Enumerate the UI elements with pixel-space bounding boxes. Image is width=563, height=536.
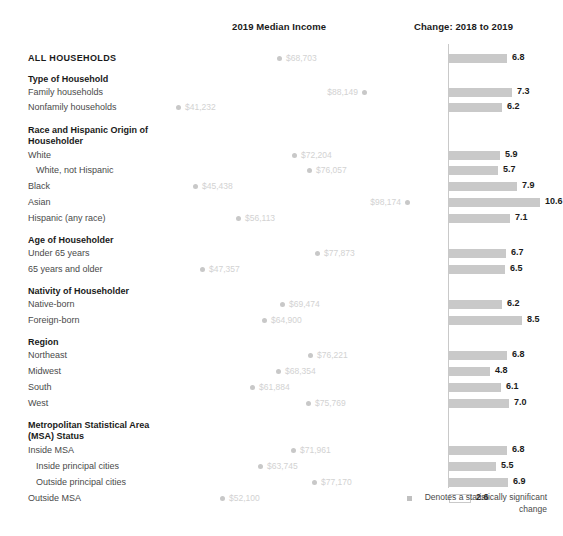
change-value: 5.5 — [501, 459, 514, 471]
group-heading: Age of Householder — [28, 234, 114, 246]
median-income-value: $45,438 — [202, 180, 233, 192]
group-heading: Type of Household — [28, 73, 108, 85]
median-income-dot — [276, 369, 281, 374]
change-value: 7.0 — [514, 396, 527, 408]
median-income-value: $76,057 — [316, 164, 347, 176]
column-header-change: Change: 2018 to 2019 — [414, 21, 513, 32]
change-bar — [449, 462, 496, 471]
median-income-value: $52,100 — [229, 492, 260, 504]
median-income-dot — [277, 56, 282, 61]
table-row: 65 years and older$47,3576.5 — [0, 263, 555, 281]
change-value: 6.7 — [511, 246, 524, 258]
median-income-value: $75,769 — [315, 397, 346, 409]
median-income-dot — [193, 184, 198, 189]
row-label: White — [28, 149, 51, 161]
change-value: 5.7 — [503, 163, 516, 175]
change-value: 6.8 — [512, 51, 525, 63]
change-value: 6.9 — [513, 475, 526, 487]
change-value: 7.1 — [515, 211, 528, 223]
median-income-dot — [308, 353, 313, 358]
row-label: Inside MSA — [28, 444, 74, 456]
change-bar — [449, 478, 508, 487]
change-value: 6.8 — [512, 348, 525, 360]
row-label: Outside principal cities — [36, 476, 126, 488]
change-value: 6.8 — [512, 443, 525, 455]
median-income-dot — [362, 90, 367, 95]
median-income-value: $61,884 — [259, 381, 290, 393]
row-label: Inside principal cities — [36, 460, 119, 472]
median-income-value: $41,232 — [185, 101, 216, 113]
change-bar — [449, 214, 510, 223]
change-bar — [449, 399, 509, 408]
change-value: 7.9 — [522, 179, 535, 191]
median-income-value: $77,873 — [324, 247, 355, 259]
median-income-dot — [220, 496, 225, 501]
column-header-median-income: 2019 Median Income — [232, 21, 326, 32]
median-income-value: $47,357 — [209, 263, 240, 275]
significance-swatch-icon — [407, 496, 412, 501]
table-row: West$75,7697.0 — [0, 397, 555, 415]
median-income-dot — [306, 401, 311, 406]
median-income-value: $76,221 — [317, 349, 348, 361]
row-label: ALL HOUSEHOLDS — [28, 52, 116, 64]
change-value: 6.2 — [507, 297, 520, 309]
median-income-value: $68,354 — [285, 365, 316, 377]
median-income-dot — [312, 480, 317, 485]
median-income-dot — [405, 200, 410, 205]
median-income-dot — [292, 153, 297, 158]
change-bar — [449, 265, 505, 274]
median-income-dot — [250, 385, 255, 390]
median-income-dot — [307, 168, 312, 173]
median-income-value: $56,113 — [245, 212, 275, 224]
change-bar — [449, 249, 506, 258]
row-label: 65 years and older — [28, 263, 103, 275]
median-income-dot — [315, 251, 320, 256]
change-bar — [449, 300, 502, 309]
median-income-value: $77,170 — [321, 476, 352, 488]
median-income-value: $63,745 — [267, 460, 298, 472]
change-bar — [449, 446, 507, 455]
change-value: 6.2 — [507, 100, 520, 112]
table-row: Nonfamily households$41,2326.2 — [0, 101, 555, 119]
group-heading: (MSA) Status — [28, 430, 84, 442]
change-value: 7.3 — [517, 85, 530, 97]
row-label: Hispanic (any race) — [28, 212, 106, 224]
group-heading: Region — [28, 336, 59, 348]
change-value: 4.8 — [495, 364, 508, 376]
median-income-dot — [291, 448, 296, 453]
median-income-value: $88,149 — [312, 86, 358, 98]
row-label: Outside MSA — [28, 492, 81, 504]
row-label: Asian — [28, 196, 51, 208]
median-income-dot — [236, 216, 241, 221]
change-bar — [449, 367, 490, 376]
table-row: Hispanic (any race)$56,1137.1 — [0, 212, 555, 230]
row-label: South — [28, 381, 52, 393]
table-row: ALL HOUSEHOLDS$68,7036.8 — [0, 52, 555, 70]
median-income-value: $98,174 — [355, 196, 401, 208]
row-label: Midwest — [28, 365, 61, 377]
row-label: West — [28, 397, 48, 409]
median-income-dot — [200, 267, 205, 272]
row-label: Black — [28, 180, 50, 192]
table-row: Foreign-born$64,9008.5 — [0, 314, 555, 332]
median-income-dot — [280, 302, 285, 307]
change-value: 5.9 — [505, 148, 518, 160]
row-label: Native-born — [28, 298, 75, 310]
median-income-dot — [176, 105, 181, 110]
row-label: Nonfamily households — [28, 101, 117, 113]
median-income-value: $68,703 — [286, 52, 317, 64]
change-value: 6.5 — [510, 262, 523, 274]
group-heading: Householder — [28, 135, 83, 147]
change-bar — [449, 383, 501, 392]
change-value: 8.5 — [527, 313, 540, 325]
change-bar — [449, 103, 502, 112]
median-income-dot — [262, 318, 267, 323]
change-bar — [449, 54, 507, 63]
median-income-value: $69,474 — [289, 298, 320, 310]
change-bar — [449, 182, 517, 191]
row-label: Family households — [28, 86, 103, 98]
change-value: 6.1 — [506, 380, 519, 392]
change-bar — [449, 166, 498, 175]
legend-label: Denotes a statistically significant chan… — [419, 492, 547, 515]
